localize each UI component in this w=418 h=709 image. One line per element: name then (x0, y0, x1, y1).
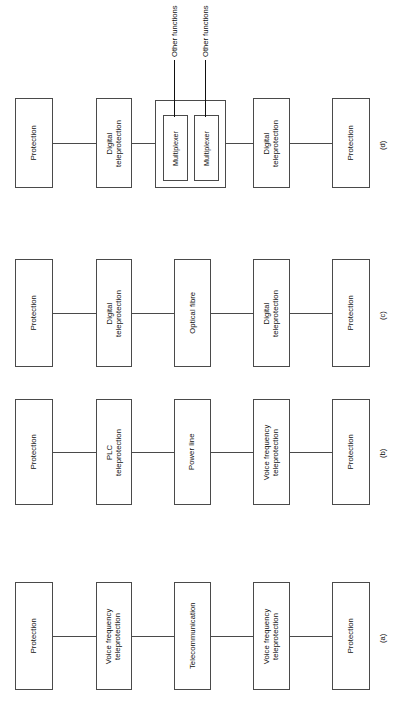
diagram-row-c: Protection Digital teleprotection Optica… (0, 230, 418, 400)
box-a-voice-frequency-teleprotection-right[interactable]: Voice frequency teleprotection (253, 582, 290, 690)
box-label: Voice frequency teleprotection (262, 608, 281, 664)
box-label: Protection (346, 295, 355, 330)
box-d-digital-teleprotection-right[interactable]: Digital teleprotection (253, 98, 290, 188)
box-label: Voice frequency teleprotection (105, 608, 124, 664)
box-label: Digital teleprotection (105, 290, 124, 337)
box-d-protection-left[interactable]: Protection (15, 98, 53, 188)
box-a-protection-left[interactable]: Protection (15, 582, 53, 690)
box-b-power-line[interactable]: Power line (174, 399, 211, 505)
connector-a-4 (290, 636, 333, 637)
box-a-telecommunication[interactable]: Telecommunication (174, 582, 211, 690)
stub-other-functions-1 (174, 60, 175, 117)
box-a-protection-right[interactable]: Protection (332, 582, 370, 690)
label-other-functions-2: Other functions (202, 6, 210, 58)
box-c-optical-fibre[interactable]: Optical fibre (174, 259, 211, 367)
connector-b-3 (211, 452, 254, 453)
box-d-multiplexer-1[interactable]: Multiplexer (163, 115, 188, 181)
box-c-protection-left[interactable]: Protection (15, 259, 53, 367)
box-label: Protection (29, 434, 38, 469)
box-label: Digital teleprotection (262, 120, 281, 167)
connector-d-4 (290, 143, 333, 144)
box-c-digital-teleprotection-right[interactable]: Digital teleprotection (253, 259, 290, 367)
connector-c-4 (290, 313, 333, 314)
connector-d-2 (131, 143, 156, 144)
box-label: PLC teleprotection (105, 429, 124, 476)
box-label: Voice frequency teleprotection (262, 424, 281, 480)
diagram-row-d: Protection Digital teleprotection Multip… (0, 0, 418, 230)
row-caption-b: (b) (379, 449, 387, 458)
box-label: Protection (29, 125, 38, 160)
box-label: Power line (188, 434, 197, 470)
connector-c-2 (131, 313, 174, 314)
box-label: Protection (346, 618, 355, 653)
row-caption-a: (a) (379, 634, 387, 643)
box-label: Digital teleprotection (262, 290, 281, 337)
box-b-protection-left[interactable]: Protection (15, 399, 53, 505)
box-label: Digital teleprotection (105, 120, 124, 167)
connector-b-2 (131, 452, 174, 453)
box-label: Multiplexer (202, 131, 211, 166)
box-d-digital-teleprotection-left[interactable]: Digital teleprotection (96, 98, 132, 188)
box-b-protection-right[interactable]: Protection (332, 399, 370, 505)
box-b-plc-teleprotection[interactable]: PLC teleprotection (96, 399, 132, 505)
diagram-row-b: Protection PLC teleprotection Power line… (0, 400, 418, 555)
connector-a-1 (52, 636, 97, 637)
multiplexer-group[interactable]: Multiplexer Multiplexer (155, 100, 226, 188)
connector-d-3 (225, 143, 254, 144)
box-label: Protection (346, 434, 355, 469)
box-label: Telecommunication (188, 603, 197, 670)
box-label: Multiplexer (171, 131, 180, 166)
connector-d-1 (52, 143, 97, 144)
box-label: Protection (29, 295, 38, 330)
box-d-multiplexer-2[interactable]: Multiplexer (194, 115, 219, 181)
connector-a-3 (211, 636, 254, 637)
connector-a-2 (131, 636, 174, 637)
box-d-protection-right[interactable]: Protection (332, 98, 370, 188)
diagram-canvas: Protection Digital teleprotection Multip… (0, 0, 418, 709)
connector-c-1 (52, 313, 97, 314)
row-caption-d: (d) (379, 141, 387, 150)
box-b-voice-frequency-teleprotection[interactable]: Voice frequency teleprotection (253, 399, 290, 505)
box-c-protection-right[interactable]: Protection (332, 259, 370, 367)
label-other-functions-1: Other functions (171, 6, 179, 58)
box-c-digital-teleprotection-left[interactable]: Digital teleprotection (96, 259, 132, 367)
box-label: Protection (346, 125, 355, 160)
box-a-voice-frequency-teleprotection-left[interactable]: Voice frequency teleprotection (96, 582, 132, 690)
stub-other-functions-2 (205, 60, 206, 117)
connector-b-4 (290, 452, 333, 453)
box-label: Optical fibre (188, 292, 197, 334)
row-caption-c: (c) (379, 311, 387, 320)
diagram-row-a: Protection Voice frequency teleprotectio… (0, 555, 418, 709)
box-label: Protection (29, 618, 38, 653)
connector-b-1 (52, 452, 97, 453)
connector-c-3 (211, 313, 254, 314)
